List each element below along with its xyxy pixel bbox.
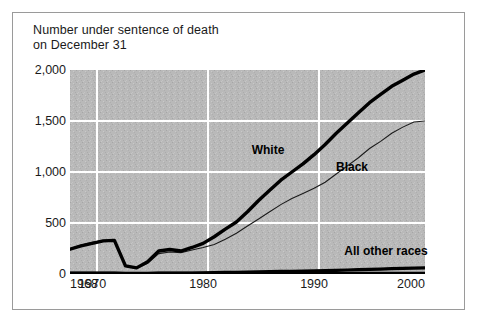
x-axis: 19681970198019902000 — [70, 277, 450, 297]
y-axis-tick-label: 500 — [14, 216, 66, 230]
y-axis: 2,0001,5001,0005000 — [13, 70, 66, 274]
series-label-all-other-races: All other races — [344, 244, 427, 258]
chart-frame: Number under sentence of death on Decemb… — [12, 12, 465, 310]
y-axis-tick-label: 2,000 — [14, 63, 66, 77]
y-axis-tick-label: 1,500 — [14, 114, 66, 128]
plot-area: White Black All other races — [70, 70, 425, 274]
chart-title: Number under sentence of death on Decemb… — [33, 23, 219, 53]
series-label-white: White — [252, 143, 285, 157]
y-axis-tick-label: 0 — [14, 267, 66, 281]
y-axis-tick-label: 1,000 — [14, 165, 66, 179]
series-label-black: Black — [336, 160, 368, 174]
x-axis-tick-label: 1970 — [78, 277, 106, 291]
x-axis-tick-label: 2000 — [397, 277, 425, 291]
x-axis-tick-label: 1980 — [189, 277, 217, 291]
x-axis-tick-label: 1990 — [300, 277, 328, 291]
